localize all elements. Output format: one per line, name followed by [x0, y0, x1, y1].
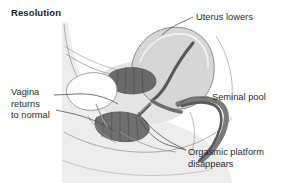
label-uterus-lowers: Uterus lowers: [196, 12, 253, 24]
bladder: [67, 73, 117, 111]
label-orgasmic-platform-disappears: Orgasmic platform disappears: [188, 147, 264, 170]
label-seminal-pool: Seminal pool: [212, 92, 266, 104]
anatomical-figure: Resolution Uterus lowers Seminal pool Or…: [0, 0, 294, 183]
figure-title: Resolution: [11, 7, 61, 18]
label-vagina-returns-to-normal: Vagina returns to normal: [11, 87, 50, 122]
